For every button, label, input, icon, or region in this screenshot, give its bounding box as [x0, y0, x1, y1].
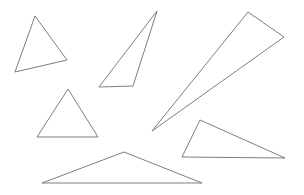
triangle-right-lower — [182, 120, 285, 158]
triangle-top-left — [15, 16, 67, 72]
figure-canvas — [0, 0, 304, 195]
triangle-bottom-center — [42, 152, 202, 183]
triangle-left-middle — [37, 89, 98, 137]
triangle-sliver-diagonal — [152, 12, 284, 131]
triangle-top-middle-thin — [99, 11, 157, 87]
triangles-diagram — [0, 0, 304, 195]
